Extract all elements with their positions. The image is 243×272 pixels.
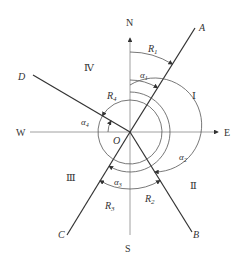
label-O: O bbox=[113, 135, 120, 146]
label-B: B bbox=[193, 229, 199, 240]
label-alpha3: α3 bbox=[114, 177, 122, 188]
label-C: C bbox=[58, 229, 65, 240]
arc-R2 bbox=[130, 181, 160, 190]
line-OB bbox=[130, 132, 192, 232]
quadrant-III: Ⅲ bbox=[66, 172, 76, 183]
label-R3: R3 bbox=[104, 200, 115, 213]
arc-alpha1 bbox=[130, 80, 158, 88]
label-alpha4: α4 bbox=[81, 117, 89, 128]
arc-alpha2 bbox=[130, 78, 202, 172]
quadrant-II: Ⅱ bbox=[190, 180, 197, 191]
quadrant-I: Ⅰ bbox=[192, 90, 196, 101]
label-alpha2: α2 bbox=[179, 152, 187, 163]
label-east: E bbox=[224, 127, 230, 138]
label-alpha1: α1 bbox=[140, 70, 148, 81]
arc-alpha4-west bbox=[108, 121, 111, 132]
label-west: W bbox=[16, 127, 26, 138]
label-D: D bbox=[17, 71, 26, 82]
label-R4: R4 bbox=[106, 90, 117, 103]
azimuth-diagram: N S W E A B C D O Ⅰ Ⅱ Ⅲ Ⅳ R1 R2 R3 R4 α1… bbox=[0, 0, 243, 272]
label-R2: R2 bbox=[144, 193, 155, 206]
label-A: A bbox=[198, 22, 206, 33]
label-north: N bbox=[126, 17, 133, 28]
quadrant-IV: Ⅳ bbox=[84, 62, 95, 73]
label-south: S bbox=[125, 243, 131, 254]
